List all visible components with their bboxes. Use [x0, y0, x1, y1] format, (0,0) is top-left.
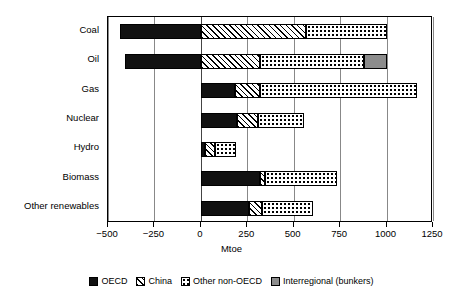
x-axis-title: Mtoe	[0, 243, 463, 254]
dotted-swatch	[181, 277, 190, 286]
bar-group	[108, 24, 431, 39]
x-tick-label--250: −250	[128, 228, 178, 239]
bar-segment	[201, 113, 237, 128]
x-tick-mark-750	[339, 222, 340, 227]
bar-segment	[125, 54, 201, 69]
bar-segment	[262, 201, 313, 216]
x-tick-label-500: 500	[268, 228, 318, 239]
y-axis-label-oil: Oil	[87, 54, 99, 64]
x-tick-mark-500	[293, 222, 294, 227]
chart-legend: OECDChinaOther non-OECDInterregional (bu…	[0, 276, 463, 286]
legend-label: OECD	[101, 276, 127, 286]
x-tick-mark--500	[107, 222, 108, 227]
bar-segment	[258, 113, 304, 128]
hatched-swatch	[136, 277, 145, 286]
bar-group	[108, 113, 431, 128]
bar-segment	[260, 83, 417, 98]
solid-black-swatch	[89, 277, 98, 286]
x-tick-mark-250	[246, 222, 247, 227]
gridline-1250	[433, 17, 434, 221]
legend-item: Interregional (bunkers)	[271, 276, 374, 286]
legend-item: Other non-OECD	[181, 276, 262, 286]
x-tick-mark-0	[200, 222, 201, 227]
legend-item: China	[136, 276, 172, 286]
bar-segment	[235, 83, 260, 98]
legend-label: Interregional (bunkers)	[283, 276, 374, 286]
bar-group	[108, 54, 431, 69]
legend-item: OECD	[89, 276, 127, 286]
bar-segment	[249, 201, 262, 216]
bar-group	[108, 201, 431, 216]
chart-figure: CoalOilGasNuclearHydroBiomassOther renew…	[0, 0, 463, 306]
y-axis-label-coal: Coal	[79, 25, 99, 35]
y-axis-label-gas: Gas	[82, 84, 99, 94]
x-tick-mark-1250	[432, 222, 433, 227]
bar-segment	[237, 113, 258, 128]
bar-segment	[120, 24, 201, 39]
grey-swatch	[271, 277, 280, 286]
plot-area	[107, 16, 432, 222]
bar-segment	[364, 54, 386, 69]
x-tick-label-0: 0	[175, 228, 225, 239]
x-tick-label-250: 250	[221, 228, 271, 239]
y-axis-label-hydro: Hydro	[74, 142, 99, 152]
legend-label: Other non-OECD	[193, 276, 262, 286]
bar-segment	[306, 24, 387, 39]
x-tick-label-1250: 1250	[407, 228, 457, 239]
bar-group	[108, 171, 431, 186]
bar-segment	[201, 54, 260, 69]
x-tick-mark-1000	[386, 222, 387, 227]
bar-group	[108, 83, 431, 98]
x-tick-mark--250	[153, 222, 154, 227]
x-tick-label-1000: 1000	[361, 228, 411, 239]
legend-label: China	[148, 276, 172, 286]
bar-segment	[201, 171, 260, 186]
bar-segment	[265, 171, 337, 186]
bar-group	[108, 142, 431, 157]
x-tick-label-750: 750	[314, 228, 364, 239]
bar-segment	[215, 142, 236, 157]
bar-segment	[260, 54, 364, 69]
y-axis-label-biomass: Biomass	[63, 172, 99, 182]
bar-segment	[201, 24, 306, 39]
bar-segment	[201, 83, 235, 98]
bar-segment	[205, 142, 215, 157]
x-tick-label--500: −500	[82, 228, 132, 239]
y-axis-label-nuclear: Nuclear	[66, 113, 99, 123]
bar-segment	[201, 201, 249, 216]
y-axis-label-other-renewables: Other renewables	[24, 201, 99, 211]
